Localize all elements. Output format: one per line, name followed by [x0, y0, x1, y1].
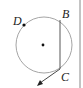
point-d [22, 23, 25, 26]
label-d: D [12, 14, 22, 28]
label-b: B [62, 7, 70, 21]
arrowhead-icon [37, 80, 43, 86]
geometry-diagram: D B C [0, 0, 83, 88]
center-point [42, 44, 45, 47]
ray-c [40, 69, 60, 83]
label-c: C [61, 70, 70, 84]
